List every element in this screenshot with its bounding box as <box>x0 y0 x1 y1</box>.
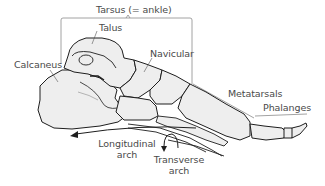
metatarsals-label: Metatarsals <box>228 88 282 99</box>
tarsus-label: Tarsus (= ankle) <box>96 4 172 15</box>
navicular-label: Navicular <box>150 48 194 59</box>
transverse-arch-label-line2: arch <box>152 165 206 176</box>
longitudinal-arch-label: Longitudinal arch <box>97 138 157 160</box>
talus-label: Talus <box>99 22 122 33</box>
phalanx-proximal <box>250 124 286 140</box>
longitudinal-arch-label-line2: arch <box>97 149 157 160</box>
arrow-head-icon <box>70 131 78 138</box>
arrow-head-icon <box>161 146 167 152</box>
calcaneus-label: Calcaneus <box>14 59 62 70</box>
phalanges-bracket <box>255 114 307 116</box>
phalanx-distal <box>292 123 307 138</box>
foot-skeleton-diagram: Tarsus (= ankle) Talus Navicular Calcane… <box>0 0 325 186</box>
longitudinal-arch-label-line1: Longitudinal <box>97 138 157 149</box>
phalanges-label: Phalanges <box>263 102 311 113</box>
transverse-arch-label: Transverse arch <box>152 154 206 176</box>
transverse-arch-label-line1: Transverse <box>152 154 206 165</box>
cuboid-bone <box>116 96 158 120</box>
